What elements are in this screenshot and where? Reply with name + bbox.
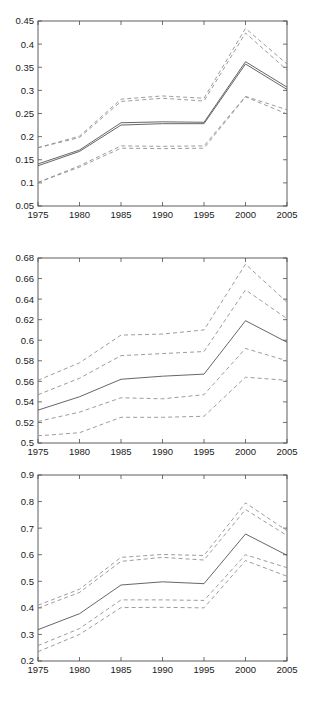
y-axis-tick-label: 0.35 — [16, 62, 35, 73]
y-axis-tick-label: 0.2 — [21, 131, 34, 142]
y-axis-tick-label: 0.54 — [16, 396, 35, 407]
chart-svg-1: 0.050.10.150.20.250.30.350.40.4519751980… — [0, 0, 309, 234]
x-axis-tick-label: 1975 — [27, 664, 48, 675]
series-line-mean — [38, 64, 287, 166]
x-axis-tick-label: 2000 — [235, 664, 256, 675]
x-axis-tick-label: 1990 — [152, 446, 173, 457]
x-axis-tick-label: 2005 — [276, 446, 297, 457]
series-line-mean — [38, 534, 287, 630]
plot-box — [38, 21, 287, 206]
plot-area-3: 0.20.30.40.50.60.70.80.91975198019851990… — [0, 469, 309, 701]
series-line-lower-outer — [38, 377, 287, 436]
series-line-upper-outer — [38, 264, 287, 380]
x-axis-tick-label: 2000 — [235, 209, 256, 220]
series-line-upper-outer — [38, 503, 287, 605]
series-line-lower-inner — [38, 348, 287, 421]
y-axis-tick-label: 0.58 — [16, 355, 35, 366]
plot-area-1: 0.050.10.150.20.250.30.350.40.4519751980… — [0, 0, 309, 234]
series-line-upper-outer — [38, 28, 287, 147]
y-axis-tick-label: 0.45 — [16, 15, 35, 26]
x-axis-tick-label: 1985 — [110, 446, 131, 457]
y-axis-tick-label: 0.7 — [21, 523, 34, 534]
y-axis-tick-label: 0.5 — [21, 576, 34, 587]
y-axis-tick-label: 0.6 — [21, 549, 34, 560]
y-axis-tick-label: 0.8 — [21, 496, 34, 507]
series-line-lower-inner — [38, 555, 287, 646]
y-axis-tick-label: 0.3 — [21, 629, 34, 640]
x-axis-tick-label: 1985 — [110, 209, 131, 220]
y-axis-tick-label: 0.56 — [16, 376, 35, 387]
series-line-upper-inner — [38, 33, 287, 148]
chart-panel-1: 0.050.10.150.20.250.30.350.40.4519751980… — [0, 0, 309, 234]
x-axis-tick-label: 1985 — [110, 664, 131, 675]
x-axis-tick-label: 1975 — [27, 209, 48, 220]
x-axis-tick-label: 1975 — [27, 446, 48, 457]
x-axis-tick-label: 1990 — [152, 209, 173, 220]
x-axis-tick-label: 2005 — [276, 664, 297, 675]
plot-box — [38, 258, 287, 443]
x-axis-tick-label: 2005 — [276, 209, 297, 220]
y-axis-tick-label: 0.4 — [21, 602, 34, 613]
x-axis-tick-label: 1995 — [193, 664, 214, 675]
x-axis-tick-label: 1980 — [69, 446, 90, 457]
plot-box — [38, 475, 287, 661]
y-axis-tick-label: 0.64 — [16, 294, 35, 305]
x-axis-tick-label: 1990 — [152, 664, 173, 675]
series-line-mean-upper — [38, 62, 287, 164]
series-line-upper-inner — [38, 290, 287, 395]
y-axis-tick-label: 0.1 — [21, 177, 34, 188]
y-axis-tick-label: 0.68 — [16, 252, 35, 263]
chart-panel-3: 0.20.30.40.50.60.70.80.91975198019851990… — [0, 469, 309, 701]
y-axis-tick-label: 0.66 — [16, 273, 35, 284]
series-line-lower-outer — [38, 97, 287, 183]
figure-sheet: 0.050.10.150.20.250.30.350.40.4519751980… — [0, 0, 309, 701]
y-axis-tick-label: 0.9 — [21, 469, 34, 480]
y-axis-tick-label: 0.4 — [21, 39, 34, 50]
chart-svg-2: 0.50.520.540.560.580.60.620.640.660.6819… — [0, 234, 309, 469]
y-axis-tick-label: 0.52 — [16, 417, 35, 428]
plot-area-2: 0.50.520.540.560.580.60.620.640.660.6819… — [0, 234, 309, 469]
chart-svg-3: 0.20.30.40.50.60.70.80.91975198019851990… — [0, 469, 309, 701]
y-axis-tick-label: 0.6 — [21, 335, 34, 346]
y-axis-tick-label: 0.25 — [16, 108, 35, 119]
y-axis-tick-label: 0.62 — [16, 314, 35, 325]
x-axis-tick-label: 1980 — [69, 664, 90, 675]
x-axis-tick-label: 1980 — [69, 209, 90, 220]
x-axis-tick-label: 2000 — [235, 446, 256, 457]
chart-panel-2: 0.50.520.540.560.580.60.620.640.660.6819… — [0, 234, 309, 469]
series-line-lower-inner — [38, 96, 287, 182]
x-axis-tick-label: 1995 — [193, 209, 214, 220]
series-line-lower-outer — [38, 561, 287, 652]
y-axis-tick-label: 0.3 — [21, 85, 34, 96]
series-line-upper-inner — [38, 510, 287, 609]
x-axis-tick-label: 1995 — [193, 446, 214, 457]
y-axis-tick-label: 0.15 — [16, 154, 35, 165]
